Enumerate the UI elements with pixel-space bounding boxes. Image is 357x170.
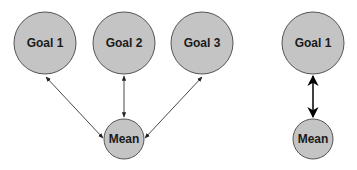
edge-goal1-mean — [46, 77, 103, 138]
goal-node-right: Goal 1 — [282, 12, 344, 74]
goal-node-1-label: Goal 1 — [27, 36, 64, 50]
edge-goal3-mean — [145, 77, 202, 138]
mean-node-left-label: Mean — [109, 132, 140, 146]
goal-node-2-label: Goal 2 — [106, 36, 143, 50]
goal-node-3-label: Goal 3 — [184, 36, 221, 50]
diagram-canvas: Goal 1 Goal 2 Goal 3 Mean Goal 1 Mean — [0, 0, 357, 170]
goal-node-right-label: Goal 1 — [295, 36, 332, 50]
goal-node-2: Goal 2 — [93, 12, 155, 74]
mean-node-left: Mean — [104, 119, 144, 159]
mean-node-right: Mean — [293, 119, 333, 159]
goal-node-3: Goal 3 — [171, 12, 233, 74]
goal-node-1: Goal 1 — [14, 12, 76, 74]
mean-node-right-label: Mean — [298, 132, 329, 146]
